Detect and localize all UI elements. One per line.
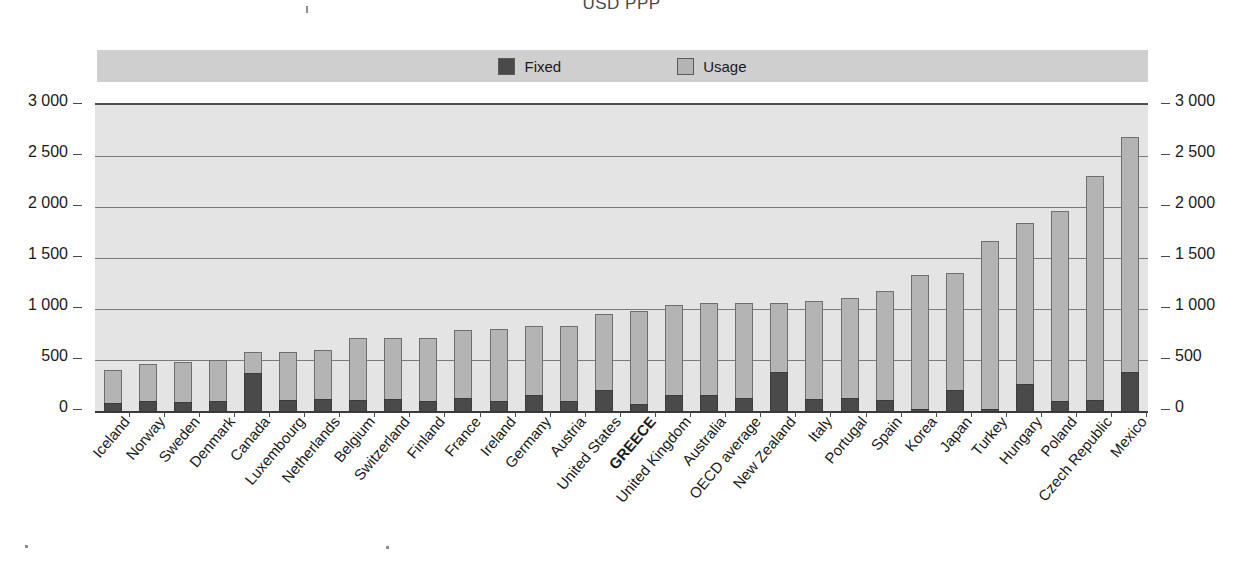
bar-slot (411, 105, 446, 411)
bar-korea[interactable] (911, 275, 929, 411)
bar-ireland[interactable] (490, 329, 508, 411)
bar-spain[interactable] (876, 291, 894, 411)
bar-poland[interactable] (1051, 211, 1069, 411)
bar-czech-republic[interactable] (1086, 176, 1104, 411)
legend-item-fixed[interactable]: Fixed (498, 58, 561, 75)
bar-slot (165, 105, 200, 411)
bar-segment-fixed (279, 400, 297, 411)
bar-japan[interactable] (946, 273, 964, 411)
bar-segment-usage (104, 370, 122, 404)
bar-segment-fixed (946, 390, 964, 411)
bar-united-states[interactable] (595, 314, 613, 411)
bar-slot (1007, 105, 1042, 411)
bar-segment-fixed (1086, 400, 1104, 411)
bar-oecd-average[interactable] (735, 303, 753, 411)
y-axis-tick-label-right: 1 000 (1175, 296, 1215, 314)
bar-sweden[interactable] (174, 362, 192, 411)
bar-segment-usage (1016, 223, 1034, 384)
y-axis-tick-label-left: 1 500 (28, 245, 68, 263)
y-axis-tick-label-left: 1 000 (28, 296, 68, 314)
bar-slot (551, 105, 586, 411)
bar-segment-usage (279, 352, 297, 400)
bar-segment-fixed (700, 395, 718, 411)
bar-segment-fixed (770, 372, 788, 411)
bar-segment-usage (244, 352, 262, 373)
bar-slot (1113, 105, 1148, 411)
legend-item-usage[interactable]: Usage (677, 58, 746, 75)
scan-speck (306, 6, 308, 13)
bar-slot (586, 105, 621, 411)
bar-greece[interactable] (630, 311, 648, 411)
bar-segment-fixed (525, 395, 543, 411)
x-axis-label-finland: Finland (404, 413, 449, 462)
bar-canada[interactable] (244, 352, 262, 411)
bar-turkey[interactable] (981, 241, 999, 411)
bar-slot (657, 105, 692, 411)
bar-segment-usage (419, 338, 437, 401)
bar-slot (306, 105, 341, 411)
y-axis-tick-label-right: 2 500 (1175, 143, 1215, 161)
bar-segment-fixed (911, 409, 929, 411)
bar-segment-usage (946, 273, 964, 389)
bar-finland[interactable] (419, 338, 437, 411)
bar-luxembourg[interactable] (279, 352, 297, 411)
bar-new-zealand[interactable] (770, 303, 788, 411)
x-axis-label-italy: Italy (804, 413, 835, 445)
bar-segment-usage (595, 314, 613, 391)
bar-segment-fixed (595, 390, 613, 411)
bar-iceland[interactable] (104, 370, 122, 411)
bar-segment-fixed (665, 395, 683, 411)
bar-segment-usage (630, 311, 648, 405)
bar-slot (235, 105, 270, 411)
bar-segment-fixed (981, 409, 999, 411)
bar-slot (762, 105, 797, 411)
y-axis-tick-label-left: 0 (59, 398, 68, 416)
bar-mexico[interactable] (1121, 137, 1139, 411)
bar-france[interactable] (454, 330, 472, 411)
bar-denmark[interactable] (209, 360, 227, 411)
y-axis-tick-mark-left (73, 205, 82, 206)
bar-switzerland[interactable] (384, 338, 402, 411)
y-axis-tick-label-left: 2 500 (28, 143, 68, 161)
bar-segment-fixed (1016, 384, 1034, 411)
bar-italy[interactable] (805, 301, 823, 411)
bar-segment-usage (1086, 176, 1104, 399)
bar-segment-fixed (805, 399, 823, 411)
bar-segment-fixed (735, 398, 753, 411)
bar-segment-fixed (314, 399, 332, 411)
y-axis-tick-mark-left (73, 307, 82, 308)
bar-portugal[interactable] (841, 298, 859, 411)
bar-slot (937, 105, 972, 411)
bar-segment-usage (981, 241, 999, 410)
bar-hungary[interactable] (1016, 223, 1034, 411)
bar-slot (200, 105, 235, 411)
bar-segment-usage (349, 338, 367, 400)
y-axis-tick-mark-right (1161, 358, 1170, 359)
y-axis-tick-label-right: 2 000 (1175, 194, 1215, 212)
bar-segment-usage (665, 305, 683, 395)
bar-belgium[interactable] (349, 338, 367, 411)
x-axis-label-spain: Spain (867, 413, 905, 453)
bar-slot (902, 105, 937, 411)
legend-swatch-usage-icon (677, 58, 694, 75)
bar-netherlands[interactable] (314, 350, 332, 411)
bar-segment-fixed (876, 400, 894, 411)
x-axis-category-labels: IcelandNorwaySwedenDenmarkCanadaLuxembou… (95, 413, 1148, 563)
bar-slot (1078, 105, 1113, 411)
bar-segment-fixed (419, 401, 437, 411)
bar-slot (867, 105, 902, 411)
bar-slot (727, 105, 762, 411)
bar-austria[interactable] (560, 326, 578, 411)
bar-germany[interactable] (525, 326, 543, 411)
legend-swatch-fixed-icon (498, 58, 515, 75)
y-axis-tick-label-left: 2 000 (28, 194, 68, 212)
bar-australia[interactable] (700, 303, 718, 411)
bar-norway[interactable] (139, 364, 157, 411)
bar-segment-fixed (139, 401, 157, 411)
bar-slot (1043, 105, 1078, 411)
bar-segment-fixed (174, 402, 192, 411)
bar-united-kingdom[interactable] (665, 305, 683, 411)
y-axis-tick-mark-left (73, 154, 82, 155)
y-axis-left: 05001 0001 5002 0002 5003 000 (0, 103, 82, 409)
y-axis-tick-mark-right (1161, 205, 1170, 206)
